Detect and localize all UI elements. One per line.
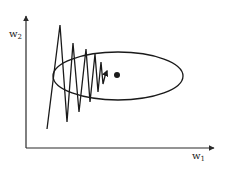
y-axis-label: w2 [9, 29, 22, 41]
descent-trajectory [47, 25, 107, 129]
x-axis-label: w1 [192, 151, 205, 163]
minimum-point [114, 72, 120, 78]
gradient-descent-diagram [0, 0, 229, 172]
